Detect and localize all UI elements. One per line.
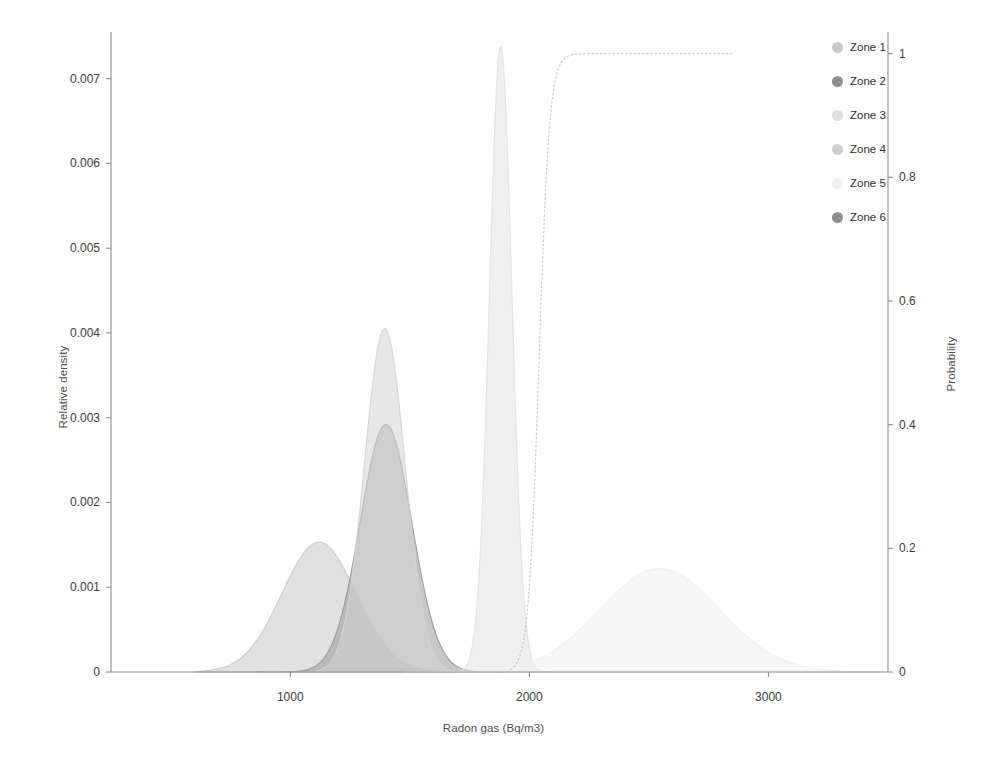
- legend-swatch-icon: [832, 178, 843, 189]
- y-tick-label-left: 0.007: [0, 72, 100, 86]
- legend-item-zone-5[interactable]: Zone 5: [832, 166, 924, 200]
- x-tick-label: 3000: [755, 690, 782, 704]
- y-tick-label-left: 0.006: [0, 156, 100, 170]
- legend-swatch-icon: [832, 212, 843, 223]
- legend-item-zone-4[interactable]: Zone 4: [832, 132, 924, 166]
- legend-swatch-icon: [832, 76, 843, 87]
- y-tick-label-right: 0: [899, 665, 906, 679]
- legend-swatch-icon: [832, 110, 843, 121]
- legend-item-zone-3[interactable]: Zone 3: [832, 98, 924, 132]
- series-line-zone-6: [510, 54, 734, 670]
- legend-swatch-icon: [832, 42, 843, 53]
- radon-density-chart: Relative density Probability Radon gas (…: [0, 0, 987, 774]
- x-axis-title: Radon gas (Bq/m3): [0, 722, 987, 734]
- y-tick-label-left: 0.005: [0, 241, 100, 255]
- x-tick-label: 2000: [516, 690, 543, 704]
- legend-item-zone-2[interactable]: Zone 2: [832, 64, 924, 98]
- series-layer: [195, 46, 876, 672]
- legend-label: Zone 5: [850, 177, 886, 189]
- y-tick-label-left: 0.004: [0, 326, 100, 340]
- legend-label: Zone 3: [850, 109, 886, 121]
- legend-label: Zone 6: [850, 211, 886, 223]
- legend-item-zone-6[interactable]: Zone 6: [832, 200, 924, 234]
- y-tick-label-left: 0: [0, 665, 100, 679]
- y-tick-label-left: 0.001: [0, 580, 100, 594]
- y-tick-label-left: 0.002: [0, 495, 100, 509]
- chart-legend: Zone 1Zone 2Zone 3Zone 4Zone 5Zone 6: [832, 30, 924, 234]
- y-tick-label-right: 0.4: [899, 418, 916, 432]
- y-axis-title-right: Probability: [946, 336, 958, 391]
- y-tick-label-right: 0.2: [899, 541, 916, 555]
- legend-swatch-icon: [832, 144, 843, 155]
- legend-label: Zone 1: [850, 41, 886, 53]
- y-tick-label-right: 0.6: [899, 294, 916, 308]
- legend-label: Zone 4: [850, 143, 886, 155]
- y-tick-label-left: 0.003: [0, 411, 100, 425]
- legend-item-zone-1[interactable]: Zone 1: [832, 30, 924, 64]
- x-tick-label: 1000: [277, 690, 304, 704]
- legend-label: Zone 2: [850, 75, 886, 87]
